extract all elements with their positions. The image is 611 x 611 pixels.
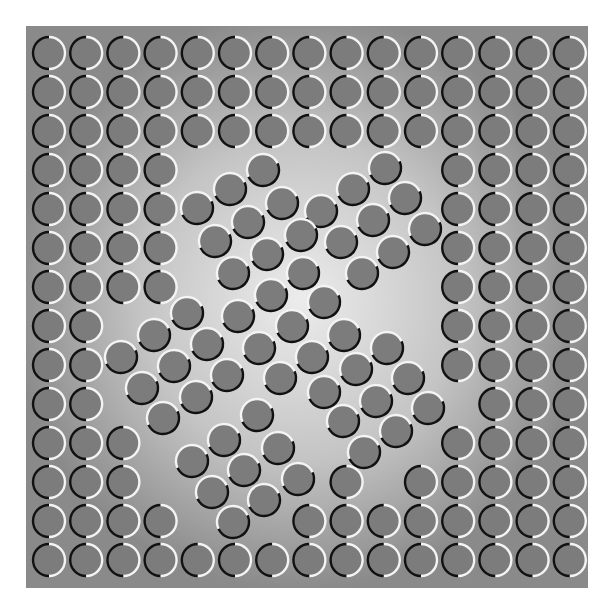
grid-circle <box>145 544 177 576</box>
grid-circle <box>107 427 139 459</box>
grid-circle <box>368 544 400 576</box>
grid-circle <box>70 232 102 264</box>
grid-circle <box>182 37 214 69</box>
rotated-circle <box>389 182 421 214</box>
grid-circle <box>182 115 214 147</box>
grid-circle <box>554 388 586 420</box>
grid-circle <box>33 388 65 420</box>
grid-circle <box>517 271 549 303</box>
grid-circle <box>33 349 65 381</box>
rotated-circle <box>241 399 273 431</box>
grid-circle <box>405 115 437 147</box>
grid-circle <box>442 115 474 147</box>
grid-circle <box>33 271 65 303</box>
grid-circle <box>554 271 586 303</box>
rotated-circle <box>357 204 389 236</box>
grid-circle <box>554 544 586 576</box>
grid-circle <box>479 505 511 537</box>
grid-circle <box>70 505 102 537</box>
grid-circle <box>517 310 549 342</box>
rotated-circle <box>181 192 213 224</box>
grid-circle <box>517 427 549 459</box>
grid-circle <box>554 193 586 225</box>
rotated-circle <box>287 257 319 289</box>
grid-circle <box>107 544 139 576</box>
grid-circle <box>405 76 437 108</box>
grid-circle <box>554 37 586 69</box>
grid-circle <box>517 505 549 537</box>
rotated-circle <box>217 257 249 289</box>
rotated-circle <box>217 506 249 538</box>
grid-circle <box>107 37 139 69</box>
grid-circle <box>107 193 139 225</box>
rotated-circle <box>126 372 158 404</box>
rotated-circle <box>247 154 279 186</box>
grid-circle <box>107 466 139 498</box>
rotated-circle <box>255 279 287 311</box>
grid-circle <box>554 466 586 498</box>
rotated-circle <box>282 463 314 495</box>
rotated-circle <box>285 219 317 251</box>
grid-circle <box>70 193 102 225</box>
rotated-circle <box>180 381 212 413</box>
grid-circle <box>331 76 363 108</box>
grid-circle <box>517 466 549 498</box>
grid-circle <box>33 544 65 576</box>
grid-circle <box>479 37 511 69</box>
grid-circle <box>219 544 251 576</box>
rotated-circle <box>262 432 294 464</box>
grid-circle <box>517 115 549 147</box>
grid-circle <box>442 427 474 459</box>
grid-circle <box>70 427 102 459</box>
rotated-circle <box>248 484 280 516</box>
grid-circle <box>442 76 474 108</box>
illusion-panel <box>26 26 588 588</box>
grid-circle <box>442 193 474 225</box>
grid-circle <box>442 154 474 186</box>
grid-circle <box>256 115 288 147</box>
grid-circle <box>107 271 139 303</box>
grid-circle <box>33 310 65 342</box>
grid-circle <box>145 37 177 69</box>
grid-circle <box>219 115 251 147</box>
grid-circle <box>479 427 511 459</box>
grid-circle <box>70 388 102 420</box>
grid-circle <box>479 271 511 303</box>
grid-circle <box>479 154 511 186</box>
grid-circle <box>442 505 474 537</box>
rotated-circle <box>340 353 372 385</box>
rotated-circle <box>409 213 441 245</box>
rotated-circle <box>346 257 378 289</box>
grid-circle <box>293 544 325 576</box>
grid-circle <box>70 310 102 342</box>
grid-circle <box>331 37 363 69</box>
grid-circle <box>517 349 549 381</box>
grid-circle <box>107 76 139 108</box>
grid-circle <box>145 505 177 537</box>
grid-circle <box>145 154 177 186</box>
rotated-circle <box>348 436 380 468</box>
rotated-circle <box>158 350 190 382</box>
rotated-circle <box>266 187 298 219</box>
grid-circle <box>331 505 363 537</box>
rotated-circle <box>196 476 228 508</box>
grid-circle <box>182 544 214 576</box>
grid-circle <box>479 115 511 147</box>
rotated-circle <box>176 445 208 477</box>
grid-circle <box>479 544 511 576</box>
rotated-circle <box>296 341 328 373</box>
grid-circle <box>33 76 65 108</box>
grid-circle <box>293 37 325 69</box>
rotated-circle <box>308 376 340 408</box>
grid-circle <box>479 466 511 498</box>
grid-circle <box>517 154 549 186</box>
grid-circle <box>479 349 511 381</box>
rotated-circle <box>328 319 360 351</box>
grid-circle <box>145 76 177 108</box>
grid-circle <box>145 115 177 147</box>
grid-circle <box>517 544 549 576</box>
grid-circle <box>368 505 400 537</box>
rotated-circle <box>337 173 369 205</box>
grid-circle <box>256 76 288 108</box>
grid-circle <box>442 466 474 498</box>
